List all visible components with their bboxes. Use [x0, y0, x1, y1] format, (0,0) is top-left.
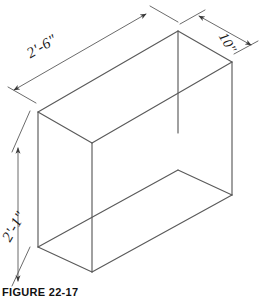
box-edge-bottom-front-right: [92, 195, 232, 272]
box-edge-top-front-right: [92, 62, 232, 143]
box-edge-top-back-left: [38, 31, 178, 112]
figure-caption: FIGURE 22-17: [2, 286, 78, 298]
box-edge-bottom-left-front: [38, 247, 92, 272]
extension-line-height-bottom: [12, 247, 30, 286]
extension-line-width-left: [8, 87, 36, 103]
extension-line-width-right: [150, 6, 178, 22]
extension-line-height-top: [12, 111, 30, 152]
box-edge-bottom-inner-right: [178, 170, 232, 195]
box-edge-bottom-inner-left: [38, 170, 178, 247]
